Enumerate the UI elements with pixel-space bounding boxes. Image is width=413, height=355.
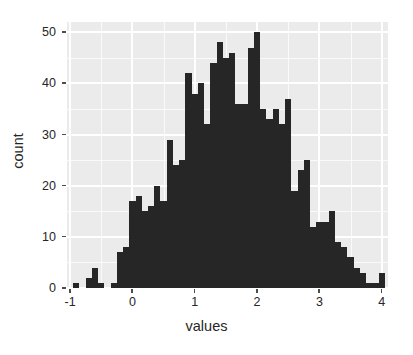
y-tick-label: 0 bbox=[20, 282, 56, 295]
x-tick-label: 1 bbox=[175, 296, 215, 309]
histogram-bar bbox=[73, 283, 79, 288]
x-tick-mark bbox=[194, 289, 196, 293]
y-tick-mark bbox=[62, 287, 66, 289]
histogram-bars bbox=[67, 22, 388, 288]
y-tick-mark bbox=[62, 236, 66, 238]
y-tick-label: 40 bbox=[20, 77, 56, 90]
y-tick-label: 50 bbox=[20, 26, 56, 39]
x-tick-mark bbox=[318, 289, 320, 293]
x-tick-mark bbox=[131, 289, 133, 293]
plot-panel bbox=[67, 22, 388, 288]
y-tick-mark bbox=[62, 82, 66, 84]
y-tick-mark bbox=[62, 185, 66, 187]
y-tick-mark bbox=[62, 31, 66, 33]
x-tick-mark bbox=[69, 289, 71, 293]
y-tick-label: 10 bbox=[20, 231, 56, 244]
x-tick-label: 2 bbox=[237, 296, 277, 309]
x-tick-label: 0 bbox=[112, 296, 152, 309]
histogram-bar bbox=[98, 283, 104, 288]
x-tick-mark bbox=[381, 289, 383, 293]
y-tick-mark bbox=[62, 134, 66, 136]
x-tick-label: 3 bbox=[299, 296, 339, 309]
x-tick-label: -1 bbox=[50, 296, 90, 309]
x-tick-mark bbox=[256, 289, 258, 293]
x-tick-label: 4 bbox=[362, 296, 402, 309]
histogram-figure: 01020304050 -101234 values count bbox=[0, 0, 413, 355]
histogram-bar bbox=[379, 273, 385, 288]
x-axis-label: values bbox=[0, 318, 413, 334]
y-axis-label: count bbox=[10, 111, 26, 191]
